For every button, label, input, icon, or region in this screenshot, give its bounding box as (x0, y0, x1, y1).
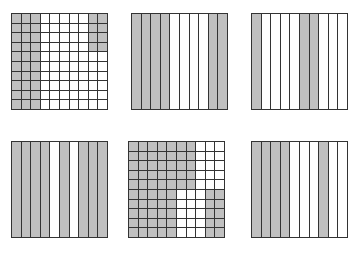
grid-cell (206, 190, 215, 199)
grid-cell (60, 24, 69, 33)
grid-cell (50, 72, 59, 81)
grid-cell (22, 43, 31, 52)
grid-cell (60, 81, 69, 90)
grid-strip (262, 142, 271, 237)
grid-strip (271, 14, 280, 109)
grid-cell (167, 190, 176, 199)
grid-strip (31, 142, 40, 237)
grid-cell (158, 180, 167, 189)
grid-cell (41, 91, 50, 100)
grid-cell (215, 190, 224, 199)
grid-cell (79, 100, 88, 109)
grid-cell (139, 190, 148, 199)
grid-strip (190, 14, 199, 109)
grid-cell (177, 228, 186, 237)
grid-cell (167, 152, 176, 161)
grid-cell (50, 43, 59, 52)
grid-cell (148, 200, 157, 209)
grid-cell (158, 190, 167, 199)
grid-cell (139, 161, 148, 170)
grid-cell (60, 52, 69, 61)
grid-strip (209, 14, 218, 109)
grid-strip (161, 14, 170, 109)
grid-cell (22, 81, 31, 90)
grid-strip (319, 14, 328, 109)
grid-cell (148, 152, 157, 161)
grid-strip (22, 142, 31, 237)
grid-3 (251, 13, 348, 110)
grid-cell (196, 171, 205, 180)
grid-strip (290, 142, 299, 237)
grid-strip (338, 142, 347, 237)
grid-cell (60, 43, 69, 52)
grid-cell (89, 24, 98, 33)
grid-cell (196, 228, 205, 237)
grid-cell (31, 81, 40, 90)
grid-cell (60, 100, 69, 109)
grid-strip (329, 142, 338, 237)
grid-cell (41, 24, 50, 33)
grid-strip (281, 14, 290, 109)
grid-cell (215, 228, 224, 237)
grid-cell (129, 152, 138, 161)
grid-cell (196, 180, 205, 189)
grid-cell (89, 52, 98, 61)
grid-cell (12, 33, 21, 42)
grid-cell (60, 14, 69, 23)
grid-cell (89, 91, 98, 100)
grid-cell (31, 24, 40, 33)
grid-strip (252, 14, 261, 109)
grid-cell (31, 43, 40, 52)
grid-cell (12, 81, 21, 90)
grid-cell (215, 209, 224, 218)
grid-cell (167, 209, 176, 218)
grid-cell (158, 161, 167, 170)
grid-cell (22, 52, 31, 61)
grid-cell (98, 91, 107, 100)
grid-strip (199, 14, 208, 109)
grid-cell (158, 200, 167, 209)
grid-cell (79, 14, 88, 23)
grid-cell (31, 72, 40, 81)
grid-cell (177, 180, 186, 189)
grid-cell (215, 180, 224, 189)
grid-cell (196, 209, 205, 218)
grid-cell (70, 52, 79, 61)
grid-cell (50, 33, 59, 42)
grid-cell (158, 219, 167, 228)
grid-cell (196, 142, 205, 151)
grid-cell (41, 43, 50, 52)
grid-strip (300, 14, 309, 109)
grid-cell (129, 142, 138, 151)
grid-cell (22, 91, 31, 100)
grid-cell (206, 180, 215, 189)
grid-cell (148, 161, 157, 170)
grid-strip (290, 14, 299, 109)
grid-4 (11, 141, 108, 238)
grid-cell (89, 43, 98, 52)
grid-cell (70, 72, 79, 81)
grid-cell (187, 171, 196, 180)
grid-cell (41, 81, 50, 90)
grid-cell (60, 72, 69, 81)
grid-cell (70, 81, 79, 90)
grid-cell (50, 14, 59, 23)
grid-strip (300, 142, 309, 237)
grid-cell (41, 14, 50, 23)
grid-cell (70, 91, 79, 100)
grid-cell (206, 171, 215, 180)
grid-cell (215, 142, 224, 151)
grid-cell (177, 190, 186, 199)
grid-cell (41, 62, 50, 71)
grid-cell (98, 33, 107, 42)
grid-cell (50, 52, 59, 61)
grid-2 (131, 13, 228, 110)
grid-cell (177, 142, 186, 151)
grid-strip (218, 14, 227, 109)
grid-cell (98, 14, 107, 23)
grid-cell (158, 228, 167, 237)
grid-cell (129, 219, 138, 228)
grid-cell (79, 81, 88, 90)
grid-cell (139, 180, 148, 189)
grid-strip (319, 142, 328, 237)
